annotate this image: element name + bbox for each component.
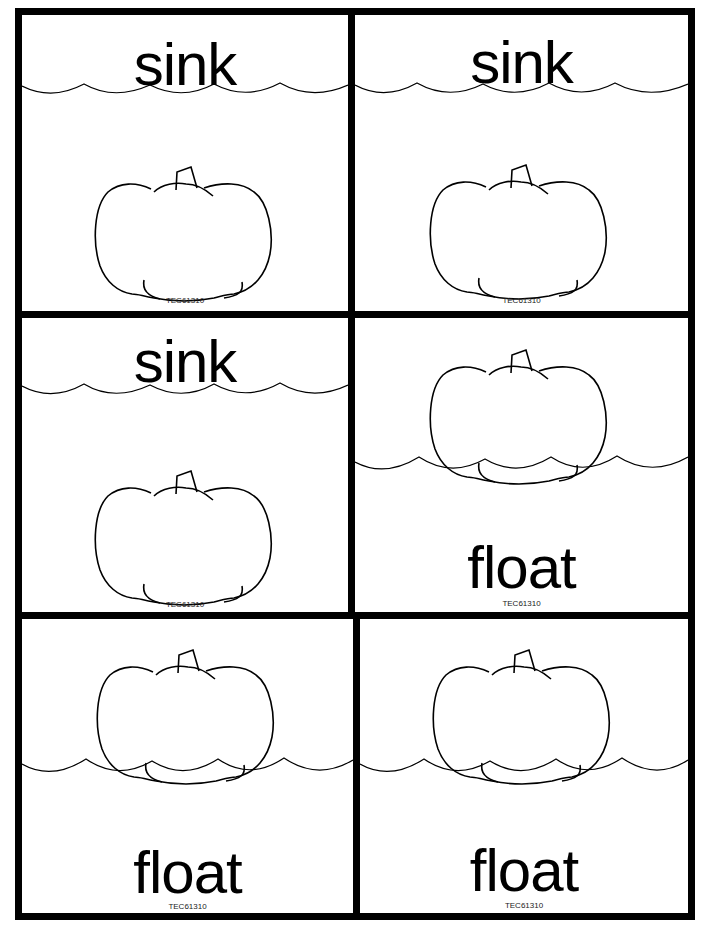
pumpkin-icon <box>430 165 606 299</box>
card-float-2: float TEC61310 <box>22 619 353 913</box>
pumpkin-icon <box>95 167 271 301</box>
pumpkin-icon <box>430 350 606 484</box>
water-wave-icon <box>355 456 688 469</box>
card-code: TEC61310 <box>22 902 353 911</box>
divider-row-1 <box>15 311 695 318</box>
border-left <box>15 8 22 920</box>
water-wave-icon <box>22 83 348 93</box>
water-wave-icon <box>22 383 348 394</box>
card-code: TEC61310 <box>355 599 688 608</box>
card-word: float <box>22 843 353 903</box>
card-code: TEC61310 <box>22 296 348 305</box>
card-sink-1: sink TEC61310 <box>22 15 348 311</box>
border-right <box>688 8 695 920</box>
card-sink-3: sink TEC61310 <box>22 318 348 612</box>
card-float-1: float TEC61310 <box>355 318 688 612</box>
border-top <box>15 8 695 15</box>
water-wave-icon <box>355 83 688 93</box>
card-code: TEC61310 <box>22 600 348 609</box>
water-wave-icon <box>360 758 688 771</box>
pumpkin-icon <box>95 471 271 605</box>
water-wave-icon <box>22 758 353 771</box>
card-float-3: float TEC61310 <box>360 619 688 913</box>
card-sink-2: sink TEC61310 <box>355 15 688 311</box>
card-word: float <box>355 538 688 598</box>
card-word: float <box>360 841 688 901</box>
divider-row-2 <box>15 612 695 619</box>
pumpkin-icon <box>433 650 609 784</box>
divider-column-lower <box>353 612 360 920</box>
worksheet-page: sink TEC61310 sink TEC6131 <box>0 0 704 926</box>
card-code: TEC61310 <box>360 901 688 910</box>
card-code: TEC61310 <box>355 296 688 305</box>
pumpkin-icon <box>97 650 273 784</box>
